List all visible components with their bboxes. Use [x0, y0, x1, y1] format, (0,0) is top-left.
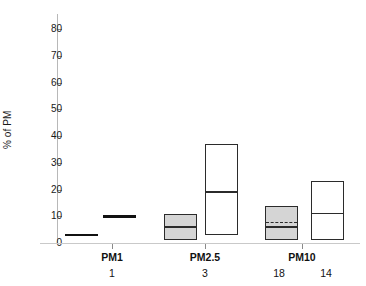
y-tick-label: 80 — [32, 24, 62, 34]
y-tick-label: 50 — [32, 104, 62, 114]
x-axis-line — [40, 243, 360, 244]
y-tick-label-wrap: 40 — [22, 131, 62, 132]
y-tick-label-wrap: 80 — [22, 24, 62, 25]
box-pm1-shaded — [65, 234, 98, 237]
y-tick-label-wrap: 50 — [22, 104, 62, 105]
median-line-pm10-shaded — [265, 226, 298, 228]
median-line-pm10-open — [311, 213, 344, 215]
box-pm2-5-open — [205, 144, 238, 235]
x-group-label-pm2-5: PM2.5 — [190, 251, 220, 263]
x-count-label: 14 — [320, 267, 332, 279]
x-count-label: 1 — [109, 267, 115, 279]
y-tick-label-wrap: 60 — [22, 78, 62, 79]
x-group-label-pm1: PM1 — [101, 251, 123, 263]
y-tick-label-wrap: 70 — [22, 51, 62, 52]
mean-line-pm10-shaded — [266, 222, 296, 223]
y-tick-label: 40 — [32, 131, 62, 141]
y-tick-label-wrap: 30 — [22, 158, 62, 159]
median-line-pm2-5-shaded — [164, 226, 197, 228]
x-count-label: 18 — [273, 267, 285, 279]
x-group-label-pm10: PM10 — [288, 251, 315, 263]
x-count-label: 3 — [202, 267, 208, 279]
box-pm10-shaded — [265, 206, 298, 241]
box-pm1-open — [103, 215, 136, 218]
y-tick-label-wrap: 20 — [22, 185, 62, 186]
y-tick-label: 60 — [32, 78, 62, 88]
y-tick-label: 30 — [32, 158, 62, 168]
x-tick-mark — [112, 244, 113, 249]
boxplot-chart: % of PM 80706050403020100 PM1PM2.5PM1013… — [0, 0, 366, 286]
y-axis-line — [57, 14, 58, 243]
x-tick-mark — [302, 244, 303, 249]
x-tick-mark — [205, 244, 206, 249]
y-tick-label: 70 — [32, 51, 62, 61]
box-pm10-open — [311, 181, 344, 240]
y-tick-label-wrap: 0 — [22, 238, 62, 239]
median-line-pm2-5-open — [205, 191, 238, 193]
y-tick-label-wrap: 10 — [22, 211, 62, 212]
y-tick-label: 20 — [32, 185, 62, 195]
y-axis-title: % of PM — [2, 95, 18, 165]
y-tick-label: 10 — [32, 211, 62, 221]
